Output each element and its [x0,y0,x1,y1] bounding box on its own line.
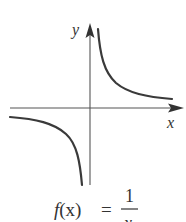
function-formula: f(x) = 1 x [54,186,138,222]
formula-numerator: 1 [125,186,134,206]
formula-argument: (x) [59,199,81,221]
svg-text:f(x): f(x) [54,199,81,221]
y-axis-label: y [70,21,80,39]
x-axis-label: x [166,114,174,131]
curve-branch-positive [98,29,172,99]
curve-branch-negative [10,117,82,185]
formula-denominator: x [123,213,132,222]
reciprocal-function-graph: y x f(x) = 1 x [0,0,186,222]
formula-equals: = [101,199,112,220]
